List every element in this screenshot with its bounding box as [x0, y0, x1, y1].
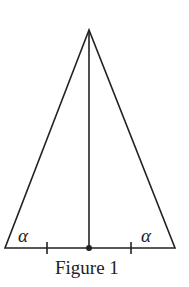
isosceles-triangle	[5, 30, 175, 248]
midpoint-dot	[86, 245, 92, 251]
angle-label-right: α	[141, 225, 152, 246]
figure-1-diagram: α α Figure 1	[0, 0, 189, 287]
figure-caption: Figure 1	[55, 257, 119, 278]
angle-label-left: α	[18, 225, 29, 246]
